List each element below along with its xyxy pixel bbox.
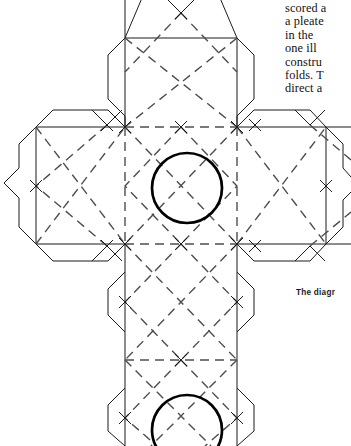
body-text-line: one ill <box>285 42 351 55</box>
body-text-column: scored a a pleate in the one ill constru… <box>285 2 351 96</box>
body-text-line: direct a <box>285 82 351 95</box>
body-text-line: a pleate <box>285 15 351 28</box>
figure-caption: The diagr <box>296 288 351 297</box>
body-text-line: in the <box>285 29 351 42</box>
body-text-line: scored a <box>285 2 351 15</box>
body-text-line: folds. T <box>285 69 351 82</box>
body-text-line: constru <box>285 56 351 69</box>
